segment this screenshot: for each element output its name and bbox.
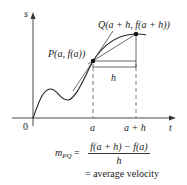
point-q-label: Q(a + h, f(a + h)) — [98, 20, 170, 30]
point-q — [134, 32, 138, 36]
average-velocity-diagram: s t 0 a a + h P(a, f(a)) Q(a + h, f(a + … — [0, 0, 187, 185]
origin-label: 0 — [23, 122, 28, 132]
s-axis-label: s — [24, 9, 28, 19]
t-axis-arrow-icon — [169, 116, 176, 121]
tick-label-a: a — [90, 123, 95, 133]
secant-line — [88, 34, 136, 64]
point-p-label: P(a, f(a)) — [48, 49, 85, 59]
t-axis-label: t — [169, 123, 172, 133]
equals-sign: = — [74, 147, 80, 158]
s-axis-arrow-icon — [31, 12, 36, 19]
average-velocity-caption: = average velocity — [85, 169, 159, 179]
slope-lhs: mPQ = — [55, 148, 80, 160]
difference-quotient: f(a + h) − f(a) h — [88, 141, 150, 166]
position-curve — [33, 34, 146, 118]
slope-subscript: PQ — [62, 152, 71, 160]
h-label: h — [111, 73, 116, 83]
h-bracket — [93, 64, 136, 67]
denominator: h — [88, 155, 150, 166]
numerator: f(a + h) − f(a) — [88, 141, 150, 152]
tick-label-a-plus-h: a + h — [124, 123, 146, 133]
point-p — [91, 59, 95, 63]
fraction-bar — [88, 153, 150, 154]
